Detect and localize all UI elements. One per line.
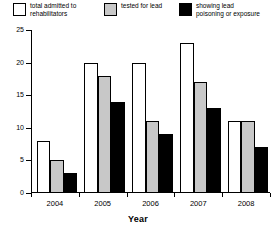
x-tick-mark (31, 193, 32, 197)
chart-legend: total admitted to rehabilitators tested … (0, 0, 276, 28)
bar-group (228, 30, 269, 193)
x-tick-mark (79, 193, 80, 197)
bar (159, 134, 173, 193)
legend-swatch-gray (104, 3, 117, 16)
legend-label-showing-lead-poisoning: showing lead poisoning or exposure (196, 2, 260, 17)
legend-swatch-black (179, 3, 192, 16)
bars-layer (31, 30, 270, 193)
bar (207, 108, 221, 193)
legend-entry-showing-lead-poisoning: showing lead poisoning or exposure (179, 2, 260, 17)
x-tick-label: 2008 (238, 199, 255, 208)
bar-group (37, 30, 78, 193)
x-tick-mark (222, 193, 223, 197)
bar (132, 63, 146, 193)
legend-label-total-admitted: total admitted to rehabilitators (30, 2, 76, 17)
plot-area: 0510152025 20042005200620072008 Year (0, 26, 276, 235)
legend-entry-tested-for-lead: tested for lead (104, 2, 162, 16)
bar (98, 76, 112, 193)
legend-swatch-white (13, 3, 26, 16)
x-tick-label: 2005 (94, 199, 111, 208)
x-axis-title: Year (0, 214, 276, 224)
bar (50, 160, 64, 193)
bar-group (180, 30, 221, 193)
bar (64, 173, 78, 193)
bar (228, 121, 242, 193)
bar (111, 102, 125, 193)
x-tick-label: 2006 (142, 199, 159, 208)
x-tick-label: 2007 (190, 199, 207, 208)
bar (241, 121, 255, 193)
bar-chart: total admitted to rehabilitators tested … (0, 0, 276, 235)
bar (180, 43, 194, 193)
bar (146, 121, 160, 193)
bar (255, 147, 269, 193)
x-tick-label: 2004 (47, 199, 64, 208)
bar (84, 63, 98, 193)
bar-group (84, 30, 125, 193)
bar-group (132, 30, 173, 193)
y-tick-label: 0 (20, 189, 24, 197)
legend-entry-total-admitted: total admitted to rehabilitators (13, 2, 76, 17)
bar (37, 141, 51, 193)
bar (194, 82, 208, 193)
x-tick-mark (174, 193, 175, 197)
y-tick-label: 20 (16, 59, 24, 67)
y-tick-label: 15 (16, 91, 24, 99)
legend-label-tested-for-lead: tested for lead (121, 2, 162, 10)
x-tick-mark (127, 193, 128, 197)
y-tick-label: 5 (20, 156, 24, 164)
y-tick-label: 25 (16, 26, 24, 34)
y-tick-label: 10 (16, 124, 24, 132)
x-tick-mark (270, 193, 271, 197)
